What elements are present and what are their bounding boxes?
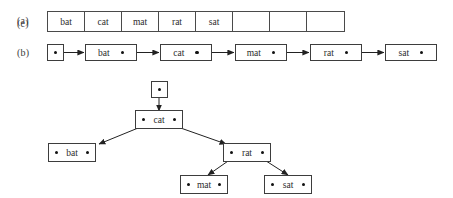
tree-node-mat: mat [180, 175, 228, 194]
tree-node-label: sat [274, 180, 301, 190]
list-node-label: cat [173, 48, 184, 58]
right-child-dot-icon [218, 183, 221, 186]
list-node-label: bat [98, 48, 110, 58]
array-cell: cat [85, 12, 122, 31]
root-pointer-box [151, 81, 168, 98]
list-node-label: rat [324, 48, 334, 58]
tree-node-sat: sat [264, 175, 312, 194]
tree-node-label: mat [190, 180, 217, 190]
data-structures-figure: (a) bat cat mat rat sat (b) ba [0, 0, 453, 198]
pointer-dot-icon [54, 51, 57, 54]
array-cell-empty [270, 12, 307, 31]
tree-node-label: cat [145, 115, 172, 125]
array-cell-empty [307, 12, 344, 31]
tree-container: cat bat rat mat sat [0, 70, 453, 198]
tree-node-rat: rat [223, 143, 271, 162]
tree-node-cat: cat [135, 110, 183, 129]
next-pointer-dot-icon [420, 51, 423, 54]
next-pointer-dot-icon [195, 51, 198, 54]
array-cell: mat [122, 12, 159, 31]
tree-node-label: rat [233, 148, 260, 158]
array-cell: rat [159, 12, 196, 31]
array-cell-empty [233, 12, 270, 31]
list-node: sat [385, 44, 437, 61]
list-node: rat [310, 44, 362, 61]
right-child-dot-icon [302, 183, 305, 186]
next-pointer-dot-icon [272, 51, 275, 54]
head-pointer-box [47, 44, 64, 61]
list-node: cat [160, 44, 212, 61]
pointer-dot-icon [158, 88, 161, 91]
next-pointer-dot-icon [345, 51, 348, 54]
linked-list-container: bat cat mat rat sat [0, 38, 453, 68]
list-node: bat [85, 44, 137, 61]
list-node: mat [235, 44, 287, 61]
right-child-dot-icon [86, 151, 89, 154]
tree-node-bat: bat [48, 143, 96, 162]
tree-node-label: bat [58, 148, 85, 158]
array-cell: bat [48, 12, 85, 31]
list-node-label: mat [247, 48, 261, 58]
array-container: bat cat mat rat sat [47, 11, 345, 32]
array-cell: sat [196, 12, 233, 31]
right-child-dot-icon [173, 118, 176, 121]
list-node-label: sat [399, 48, 410, 58]
tree-part-label: (c) [17, 18, 29, 29]
next-pointer-dot-icon [121, 51, 124, 54]
right-child-dot-icon [261, 151, 264, 154]
